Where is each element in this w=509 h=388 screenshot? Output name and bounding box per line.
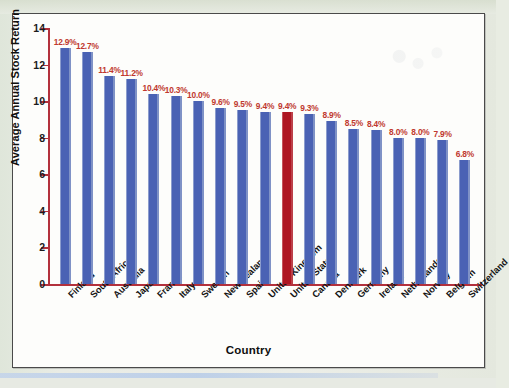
bar-value-label: 8.9% — [322, 110, 340, 120]
x-axis-title: Country — [13, 344, 484, 356]
y-axis-tick-label: 4 — [39, 205, 45, 217]
bar[interactable]: 12.7% — [82, 52, 93, 284]
bar-slot: 10.0%Sweden — [193, 28, 204, 285]
bar[interactable]: 9.6% — [215, 108, 226, 284]
bar-value-label: 8.0% — [389, 127, 407, 137]
bar-slot: 7.9%Belgium — [437, 28, 448, 285]
bar[interactable]: 7.9% — [437, 140, 448, 284]
bar-slot: 12.7%South Africa — [82, 28, 93, 285]
bar[interactable]: 9.4% — [282, 112, 293, 284]
bar[interactable]: 8.4% — [371, 130, 382, 284]
bar-slot: 9.3%Canada — [304, 28, 315, 285]
bar-slot: 8.0%Norway — [415, 28, 426, 285]
bar-value-label: 8.5% — [345, 118, 363, 128]
bar-slot: 8.0%Netherlands — [393, 28, 404, 285]
scan-tint-top — [0, 0, 496, 14]
y-axis-tick-label: 6 — [39, 168, 45, 180]
bar[interactable]: 8.9% — [326, 121, 337, 284]
y-axis-tick-label: 12 — [33, 59, 45, 71]
bar[interactable]: 11.4% — [104, 76, 115, 284]
bar-slot: 6.8%Switzerland — [459, 28, 470, 285]
bar-slot: 12.9%Finland — [60, 28, 71, 285]
bar-value-label: 9.4% — [256, 101, 274, 111]
bar[interactable]: 8.5% — [348, 129, 359, 284]
bar-slot: 9.4%United States — [282, 28, 293, 285]
y-axis-tick-label: 2 — [39, 241, 45, 253]
bar[interactable]: 10.3% — [171, 96, 182, 284]
bar-slot: 8.9%Denmark — [326, 28, 337, 285]
y-axis-tick-label: 0 — [39, 278, 45, 290]
bar-value-label: 12.7% — [76, 41, 99, 51]
y-axis-title: Average Annual Stock Return — [9, 9, 21, 166]
bar[interactable]: 12.9% — [60, 48, 71, 284]
scan-artifact-strip-lower — [0, 378, 496, 388]
bar-slot: 8.4%Ireland — [371, 28, 382, 285]
bar-value-label: 8.0% — [411, 127, 429, 137]
bar-slot: 9.5%Spain — [237, 28, 248, 285]
bar[interactable]: 6.8% — [459, 160, 470, 284]
bar-value-label: 9.6% — [211, 97, 229, 107]
chart-figure-frame: Average Annual Stock Return 02468101214 … — [12, 13, 485, 368]
bar-value-label: 10.0% — [187, 90, 210, 100]
bar-slot: 11.2%Japan — [126, 28, 137, 285]
bar[interactable]: 9.5% — [237, 110, 248, 284]
y-axis-tick-label: 14 — [33, 22, 45, 34]
bar-slot: 8.5%Germany — [348, 28, 359, 285]
bar[interactable]: 8.0% — [415, 138, 426, 284]
y-axis-tick-label: 8 — [39, 132, 45, 144]
bar[interactable]: 9.4% — [260, 112, 271, 284]
bar-value-label: 9.4% — [278, 101, 296, 111]
bar-value-label: 9.3% — [300, 103, 318, 113]
bar-value-label: 12.9% — [54, 37, 77, 47]
bar-value-label: 7.9% — [434, 129, 452, 139]
plot-area: 02468101214 12.9%Finland12.7%South Afric… — [48, 28, 482, 285]
bar[interactable]: 9.3% — [304, 114, 315, 284]
bar-value-label: 10.4% — [143, 83, 166, 93]
bar-value-label: 11.4% — [98, 65, 120, 75]
bar[interactable]: 8.0% — [393, 138, 404, 284]
bar-slot: 9.6%New Zealand — [215, 28, 226, 285]
bar-slot: 11.4%Australia — [104, 28, 115, 285]
bar-value-label: 8.4% — [367, 119, 385, 129]
bar-slot: 10.3%Italy — [171, 28, 182, 285]
bar-slot: 9.4%United Kingdom — [260, 28, 271, 285]
bar-value-label: 6.8% — [456, 149, 474, 159]
bar[interactable]: 10.0% — [193, 101, 204, 284]
bar-value-label: 9.5% — [234, 99, 252, 109]
y-axis-line — [48, 28, 50, 285]
bar-slot: 10.4%France — [148, 28, 159, 285]
bar-value-label: 10.3% — [165, 85, 188, 95]
y-axis-tick-label: 10 — [33, 95, 45, 107]
bar-value-label: 11.2% — [121, 68, 143, 78]
bar[interactable]: 10.4% — [148, 94, 159, 284]
bar[interactable]: 11.2% — [126, 79, 137, 284]
